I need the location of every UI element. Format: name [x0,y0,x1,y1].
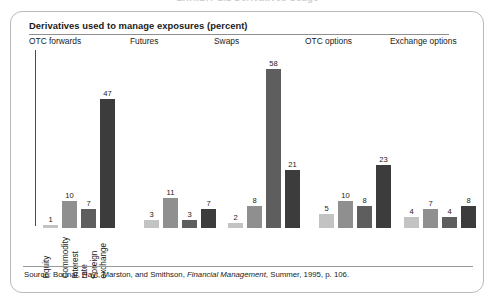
group-header-futures: Futures [130,36,158,46]
bar-otc-options-foreign-exchange [376,165,391,228]
source-authors: Bodnar, Hayt, Marston, and Smithson, [53,270,185,279]
bar-exchange-options-commodity [423,209,438,228]
bar-value-label: 4 [400,207,423,216]
bar-exchange-options-equity [404,217,419,228]
bar-value-label: 7 [77,199,100,208]
bar-swaps-foreign-exchange [285,170,300,228]
bar-value-label: 11 [159,188,182,197]
chart-panel: Derivatives used to manage exposures (pe… [10,11,484,293]
bar-otc-options-commodity [338,201,353,228]
bar-otc-forwards-commodity [62,201,77,228]
y-axis-line [35,50,36,226]
group-header-exchange-options: Exchange options [390,36,457,46]
bar-value-label: 2 [224,213,247,222]
plot-area: 132541011810773588447721238 [29,50,469,228]
bar-futures-interest-rate [182,220,197,228]
bar-value-label: 8 [243,196,266,205]
title-divider [29,34,449,35]
cut-off-exhibit-header: EXHIBIT 1.1 Derivatives Usage [0,0,495,11]
bar-otc-options-interest-rate [357,206,372,228]
source-prefix: Source: [24,270,51,279]
bar-value-label: 21 [281,160,304,169]
bar-otc-forwards-interest-rate [81,209,96,228]
bar-futures-commodity [163,198,178,228]
bar-value-label: 1 [39,215,62,224]
bar-swaps-equity [228,223,243,228]
bar-value-label: 23 [372,155,395,164]
bar-value-label: 8 [353,196,376,205]
source-divider [23,266,473,267]
bar-otc-forwards-foreign-exchange [100,99,115,228]
bar-swaps-commodity [247,206,262,228]
bar-futures-equity [144,220,159,228]
source-journal: Financial Management [187,270,266,279]
bar-futures-foreign-exchange [201,209,216,228]
bar-value-label: 7 [197,199,220,208]
group-headers: OTC forwardsFuturesSwapsOTC optionsExcha… [29,36,467,50]
chart-title: Derivatives used to manage exposures (pe… [29,20,248,31]
bar-otc-options-equity [319,214,334,228]
bar-value-label: 3 [140,210,163,219]
bar-value-label: 58 [262,59,285,68]
source-rest: , Summer, 1995, p. 106. [266,270,349,279]
bar-value-label: 4 [438,207,461,216]
group-header-swaps: Swaps [214,36,239,46]
bar-value-label: 8 [457,196,480,205]
bar-swaps-interest-rate [266,69,281,228]
group-header-otc-options: OTC options [305,36,352,46]
bar-exchange-options-foreign-exchange [461,206,476,228]
group-header-otc-forwards: OTC forwards [29,36,81,46]
cut-off-exhibit-header-text: EXHIBIT 1.1 Derivatives Usage [0,0,495,3]
source-note: Source: Bodnar, Hayt, Marston, and Smith… [24,270,349,279]
bar-value-label: 5 [315,204,338,213]
bar-exchange-options-interest-rate [442,217,457,228]
bar-value-label: 47 [96,89,119,98]
bar-value-label: 3 [178,210,201,219]
